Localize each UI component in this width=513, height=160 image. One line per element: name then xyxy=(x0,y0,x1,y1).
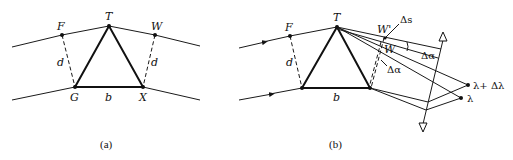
flow-arrow-lower xyxy=(239,94,272,100)
upper-line xyxy=(12,26,200,47)
point-lambda-plus xyxy=(466,83,470,87)
label-F: F xyxy=(56,20,65,33)
lower-line-in xyxy=(270,88,302,94)
label-b: b xyxy=(105,91,112,104)
point-T xyxy=(335,25,339,29)
label-T: T xyxy=(333,11,342,24)
point-W xyxy=(153,33,157,37)
label-lambda: λ xyxy=(467,93,474,104)
point-T xyxy=(107,24,111,28)
triangle xyxy=(302,27,370,88)
panel-b: F T W' W Δs Δα Δα b d λ+ Δλ λ (b) xyxy=(239,11,505,151)
point-W-prime xyxy=(383,36,386,39)
label-W: W xyxy=(151,20,164,33)
triangle-TGX xyxy=(75,26,143,87)
point-F xyxy=(60,33,64,37)
point-X xyxy=(141,85,145,89)
label-G: G xyxy=(70,91,79,104)
label-b: b xyxy=(333,91,340,104)
lower-connector-2 xyxy=(426,98,461,110)
label-d-right: d xyxy=(151,56,158,69)
label-delta-s: Δs xyxy=(400,14,412,25)
label-T: T xyxy=(105,10,114,23)
label-d: d xyxy=(286,56,293,69)
point-lower-right xyxy=(368,86,372,90)
label-lambda-plus-delta-lambda: λ+ Δλ xyxy=(473,80,505,91)
label-W: W xyxy=(384,43,397,56)
point-lambda xyxy=(459,96,463,100)
point-F xyxy=(288,34,292,38)
label-W-prime: W' xyxy=(377,23,391,36)
axis-arrow-bottom-icon xyxy=(419,123,427,132)
upper-line-in xyxy=(263,27,337,42)
panel-a: F T W G X b d d (a) xyxy=(12,10,200,151)
figure-canvas: F T W G X b d d (a) xyxy=(0,0,513,160)
label-F: F xyxy=(284,21,293,34)
label-X: X xyxy=(138,91,148,104)
caption-b: (b) xyxy=(329,138,342,151)
ray-lambda-plus xyxy=(337,27,468,85)
label-d-left: d xyxy=(57,56,64,69)
point-G xyxy=(73,85,77,89)
axis-arrow-top-icon xyxy=(439,32,447,41)
dashed-Wprime xyxy=(371,38,384,88)
label-delta-alpha-small: Δα xyxy=(387,64,401,75)
caption-a: (a) xyxy=(100,138,113,151)
point-lower-left xyxy=(300,86,304,90)
label-delta-alpha-angle: Δα xyxy=(421,50,435,61)
angle-arc xyxy=(407,42,408,51)
flow-arrow-upper xyxy=(239,42,265,48)
